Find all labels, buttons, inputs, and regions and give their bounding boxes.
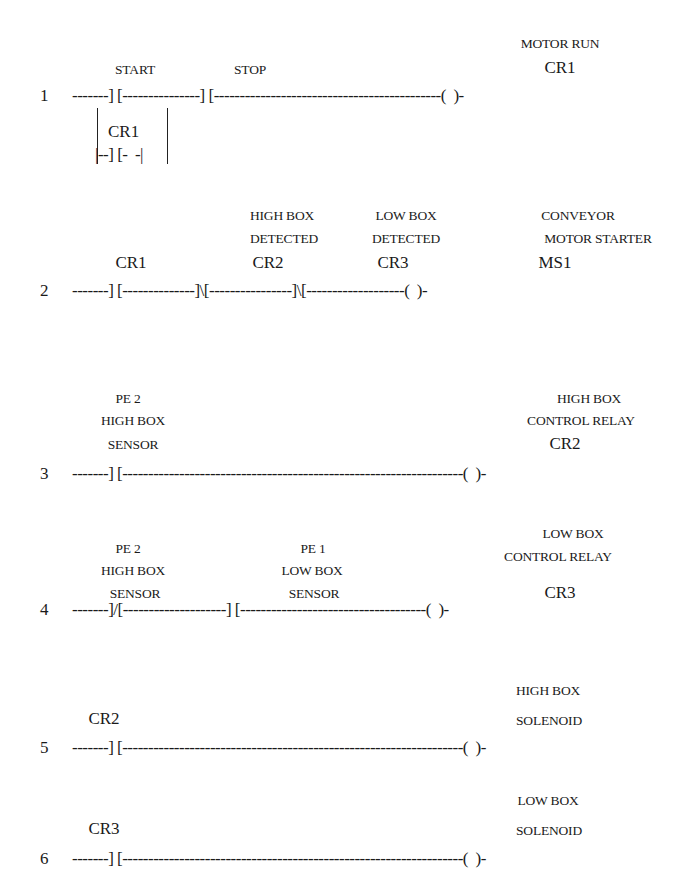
rung-3-contact1-description-2: HIGH BOX (101, 413, 165, 429)
rung-4-number: 4 (40, 600, 49, 620)
rung-2-contact1-tag: CR1 (115, 253, 146, 273)
rung-2-output-tag: MS1 (538, 253, 571, 273)
rung-3-wire: -------] [------------------------------… (72, 464, 486, 484)
rung-6-output-description-1: LOW BOX (518, 793, 579, 809)
branch-contact-tag: CR1 (108, 122, 139, 142)
rung-5-number: 5 (40, 738, 49, 758)
rung-5-output-description-2: SOLENOID (516, 713, 582, 729)
rung-4-contact1-description-1: PE 2 (115, 541, 140, 557)
rung-2-contact2-tag: CR2 (252, 253, 283, 273)
rung-4-contact1-description-2: HIGH BOX (101, 563, 165, 579)
rung-4-output-tag: CR3 (544, 583, 575, 603)
rung-5-output-description-1: HIGH BOX (516, 683, 580, 699)
rung-1-number: 1 (40, 86, 49, 106)
rung-1-output-tag: CR1 (544, 58, 575, 78)
rung-4-contact2-description-1: PE 1 (300, 541, 325, 557)
branch-contact-wire: |--] [- -| (95, 145, 143, 165)
rung-6-output-description-2: SOLENOID (516, 823, 582, 839)
rung-6-wire: -------] [------------------------------… (72, 849, 486, 869)
rung-3-contact1-description-1: PE 2 (115, 391, 140, 407)
rung-3-output-tag: CR2 (549, 434, 580, 454)
rung-3-contact1-description-3: SENSOR (108, 437, 159, 453)
rung-4-output-description-2: CONTROL RELAY (504, 549, 612, 565)
rung-3-output-description-1: HIGH BOX (557, 391, 621, 407)
rung-5-wire: -------] [------------------------------… (72, 738, 486, 758)
rung-4-wire: -------]/[--------------------] [-------… (72, 600, 449, 620)
rung-1-stop-label: STOP (234, 62, 266, 78)
rung-2-contact3-description-2: DETECTED (372, 231, 440, 247)
rung-6-number: 6 (40, 849, 49, 869)
rung-2-contact3-tag: CR3 (377, 253, 408, 273)
rung-1-start-label: START (115, 62, 155, 78)
rung-2-number: 2 (40, 281, 49, 301)
rung-2-wire: -------] [--------------]\[-------------… (72, 281, 427, 301)
rung-2-contact3-description-1: LOW BOX (376, 208, 437, 224)
rung-1-wire: -------] [---------------] [------------… (72, 86, 464, 106)
rung-5-contact1-tag: CR2 (88, 709, 119, 729)
rung-4-output-description-1: LOW BOX (543, 526, 604, 542)
rung-6-contact1-tag: CR3 (88, 819, 119, 839)
rung-2-output-description-2: MOTOR STARTER (544, 231, 651, 247)
rung-2-output-description-1: CONVEYOR (541, 208, 614, 224)
rung-4-contact2-description-2: LOW BOX (282, 563, 343, 579)
branch-right-rail (167, 108, 168, 164)
rung-2-contact2-description-1: HIGH BOX (250, 208, 314, 224)
rung-3-output-description-2: CONTROL RELAY (527, 413, 635, 429)
rung-3-number: 3 (40, 464, 49, 484)
rung-2-contact2-description-2: DETECTED (250, 231, 318, 247)
rung-1-output-description: MOTOR RUN (521, 36, 600, 52)
